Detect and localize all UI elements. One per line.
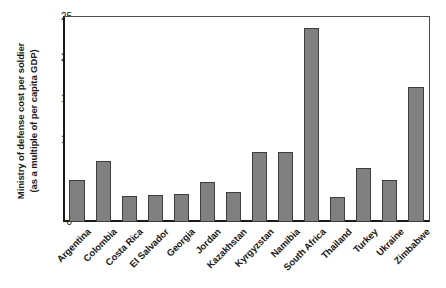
x-axis-labels: ArgentinaColombiaCosta RicaEl SalvadorGe… (0, 0, 446, 288)
x-tick-label-text: Georgia (164, 226, 197, 259)
bar-chart-figure: Ministry of defense cost per soldier (as… (0, 0, 446, 288)
